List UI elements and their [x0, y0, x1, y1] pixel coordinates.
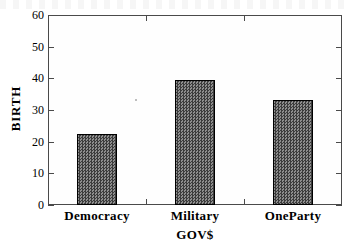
x-axis-tick-label: Democracy — [48, 208, 146, 223]
y-axis-tick — [48, 142, 54, 143]
scan-speck — [135, 99, 137, 101]
y-axis-tick — [48, 15, 54, 16]
bar-democracy — [77, 134, 117, 205]
y-axis-title: BIRTH — [9, 61, 22, 157]
bar-oneparty — [273, 100, 313, 205]
y-axis-tick — [48, 47, 54, 48]
bar-chart: 0102030405060DemocracyMilitaryOneParty B… — [0, 0, 351, 251]
y-axis-tick-label: 50 — [4, 41, 44, 53]
y-axis-tick-label: 0 — [4, 199, 44, 211]
x-axis-tick-label: OneParty — [244, 208, 342, 223]
scan-artifact — [0, 0, 351, 9]
y-axis-tick-right — [336, 205, 342, 206]
x-axis-title: GOV$ — [48, 228, 342, 242]
y-axis-tick-right — [336, 173, 342, 174]
x-axis-tick-label: Military — [146, 208, 244, 223]
x-axis-separator-tick-top — [146, 15, 147, 21]
y-axis-tick — [48, 173, 54, 174]
y-axis-tick — [48, 205, 54, 206]
y-axis-tick — [48, 78, 54, 79]
y-axis-tick-label: 60 — [4, 9, 44, 21]
x-axis-separator-tick-bottom — [146, 199, 147, 205]
bar-military — [175, 80, 215, 205]
y-axis-tick-label: 10 — [4, 167, 44, 179]
y-axis-tick-right — [336, 142, 342, 143]
y-axis-tick-right — [336, 15, 342, 16]
x-axis-separator-tick-bottom — [244, 199, 245, 205]
y-axis-tick-right — [336, 110, 342, 111]
y-axis-tick-right — [336, 78, 342, 79]
x-axis-separator-tick-top — [244, 15, 245, 21]
y-axis-tick-right — [336, 47, 342, 48]
y-axis-tick — [48, 110, 54, 111]
